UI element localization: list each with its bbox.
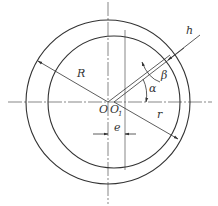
label-R: R bbox=[76, 67, 85, 80]
alpha-arc bbox=[143, 79, 147, 102]
diagram-canvas: R r h α β O O 1 e bbox=[0, 0, 218, 206]
radius-r-line bbox=[114, 102, 178, 139]
label-r: r bbox=[157, 108, 163, 121]
label-alpha: α bbox=[149, 82, 157, 95]
label-O: O bbox=[99, 103, 108, 116]
label-O1-subscript: 1 bbox=[118, 110, 122, 118]
label-e: e bbox=[114, 121, 121, 134]
label-beta: β bbox=[160, 69, 167, 82]
label-h: h bbox=[186, 24, 193, 37]
h-dimension-line bbox=[168, 35, 200, 60]
